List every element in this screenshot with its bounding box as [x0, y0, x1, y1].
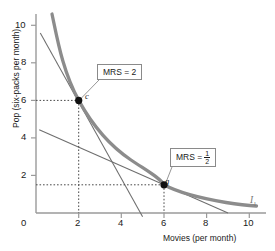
fraction-denominator: 2 [204, 158, 210, 165]
chart-canvas [0, 0, 275, 251]
y-tick-label-8: 8 [21, 56, 26, 67]
curve-label-subscript: 1 [253, 200, 256, 207]
fraction-numerator: 1 [204, 150, 210, 158]
callout-mrs-g: MRS = 1 2 [170, 148, 216, 167]
x-tick-label-0: 0 [21, 217, 26, 228]
y-tick-label-2: 2 [21, 169, 26, 180]
y-axis-title: Pop (six-packs per month) [11, 29, 21, 128]
curve-label-i1: I1 [250, 195, 256, 207]
data-point-c [75, 97, 82, 104]
y-tick-label-6: 6 [21, 94, 26, 105]
callout-leader-c [81, 80, 100, 99]
x-tick-label-2: 2 [75, 217, 80, 228]
callout-mrs-c-text: MRS = 2 [103, 68, 136, 77]
x-tick-label-4: 4 [118, 217, 123, 228]
indifference-curve [52, 14, 257, 206]
callout-mrs-c: MRS = 2 [97, 64, 142, 80]
x-tick-label-10: 10 [243, 217, 254, 228]
x-axis-title: Movies (per month) [163, 233, 236, 243]
x-tick-label-8: 8 [203, 217, 208, 228]
point-label-c: c [85, 91, 89, 101]
callout-mrs-g-prefix: MRS = [176, 153, 202, 162]
y-tick-label-4: 4 [21, 131, 26, 142]
point-label-g: g [165, 176, 169, 186]
tangent-line-at-c [40, 33, 142, 217]
x-tick-label-6: 6 [161, 217, 166, 228]
callout-mrs-g-fraction: 1 2 [204, 150, 210, 165]
indifference-curve-figure: 10 8 6 4 2 0 2 4 6 8 10 Pop (six-packs p… [0, 0, 275, 251]
